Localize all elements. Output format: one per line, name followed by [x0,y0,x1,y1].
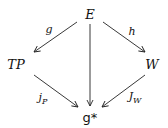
arrow-h [103,22,145,52]
label-h: h [128,26,135,37]
arrow-g [34,22,77,52]
node-gstar: g* [83,111,98,124]
label-jP-sub: P [42,97,47,106]
label-g: g [45,24,52,35]
label-JW-sub: W [133,96,141,105]
node-W: W [145,58,158,71]
label-jP: jP [39,92,48,106]
label-JW: JW [129,91,142,105]
node-TP: TP [7,58,24,71]
node-E: E [85,8,95,21]
